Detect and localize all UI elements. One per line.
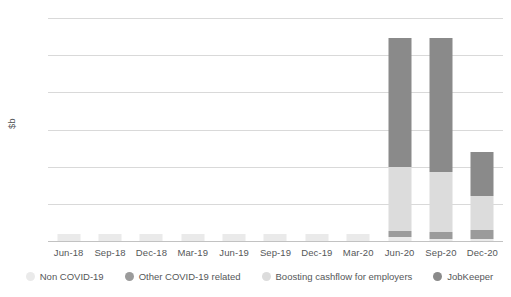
bar-stack[interactable] [388, 38, 411, 241]
bar-stack[interactable] [429, 38, 452, 241]
bar-group[interactable] [462, 18, 503, 241]
bar-segment[interactable] [99, 234, 122, 241]
legend-label: Non COVID-19 [40, 271, 104, 282]
legend-item[interactable]: Boosting cashflow for employers [262, 271, 413, 282]
bar-segment[interactable] [140, 234, 163, 241]
x-tick-label: Sep-19 [260, 247, 291, 258]
bar-group[interactable] [213, 18, 254, 241]
bar-segment[interactable] [57, 234, 80, 241]
stacked-bar-chart: $b 0102030405060 Jun-18Sep-18Dec-18Mar-1… [0, 0, 511, 297]
legend-swatch-icon [26, 272, 35, 281]
bar-stack[interactable] [305, 234, 328, 241]
bar-stack[interactable] [471, 152, 494, 241]
bar-group[interactable] [420, 18, 461, 241]
bar-stack[interactable] [264, 234, 287, 241]
x-tick-label: Mar-20 [343, 247, 374, 258]
x-tick-label: Jun-20 [385, 247, 415, 258]
chart-legend: Non COVID-19Other COVID-19 relatedBoosti… [0, 271, 511, 282]
bar-segment[interactable] [471, 230, 494, 239]
legend-swatch-icon [433, 272, 442, 281]
bar-stack[interactable] [223, 234, 246, 241]
x-tick-label: Jun-19 [219, 247, 249, 258]
legend-item[interactable]: JobKeeper [433, 271, 493, 282]
legend-swatch-icon [125, 272, 134, 281]
x-tick-label: Sep-18 [94, 247, 125, 258]
bar-stack[interactable] [347, 234, 370, 241]
bar-segment[interactable] [347, 234, 370, 241]
bar-series-container [48, 18, 503, 241]
bar-stack[interactable] [57, 234, 80, 241]
bar-segment[interactable] [429, 172, 452, 232]
bar-segment[interactable] [264, 234, 287, 241]
bar-segment[interactable] [471, 152, 494, 197]
bar-segment[interactable] [471, 239, 494, 241]
legend-label: Other COVID-19 related [139, 271, 241, 282]
bar-group[interactable] [172, 18, 213, 241]
legend-swatch-icon [262, 272, 271, 281]
bar-group[interactable] [48, 18, 89, 241]
bar-stack[interactable] [140, 234, 163, 241]
bar-segment[interactable] [388, 231, 411, 238]
legend-item[interactable]: Non COVID-19 [26, 271, 104, 282]
x-tick-label: Jun-18 [54, 247, 84, 258]
bar-group[interactable] [255, 18, 296, 241]
bar-stack[interactable] [181, 234, 204, 241]
x-tick-label: Sep-20 [425, 247, 456, 258]
plot-area [48, 18, 503, 241]
x-tick-label: Dec-19 [301, 247, 332, 258]
y-axis-title: $b [6, 118, 17, 129]
bar-segment[interactable] [429, 239, 452, 241]
legend-label: Boosting cashflow for employers [276, 271, 413, 282]
bar-group[interactable] [131, 18, 172, 241]
bar-stack[interactable] [99, 234, 122, 241]
bar-group[interactable] [89, 18, 130, 241]
bar-segment[interactable] [181, 234, 204, 241]
legend-item[interactable]: Other COVID-19 related [125, 271, 241, 282]
bar-segment[interactable] [223, 234, 246, 241]
bar-group[interactable] [338, 18, 379, 241]
bar-group[interactable] [296, 18, 337, 241]
gridline-0 [48, 241, 503, 242]
bar-segment[interactable] [429, 38, 452, 172]
bar-segment[interactable] [471, 196, 494, 229]
x-tick-label: Dec-18 [136, 247, 167, 258]
bar-segment[interactable] [388, 38, 411, 166]
bar-segment[interactable] [388, 237, 411, 241]
bar-segment[interactable] [305, 234, 328, 241]
bar-segment[interactable] [388, 167, 411, 231]
x-tick-label: Mar-19 [177, 247, 208, 258]
bar-group[interactable] [379, 18, 420, 241]
x-tick-label: Dec-20 [467, 247, 498, 258]
legend-label: JobKeeper [447, 271, 493, 282]
bar-segment[interactable] [429, 232, 452, 239]
